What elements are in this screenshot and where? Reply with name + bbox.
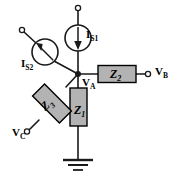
label-is1: IS1 bbox=[86, 29, 98, 43]
circuit-diagram: IS1 IS2 VA VB VC Z1 Z2 Z3 bbox=[0, 0, 179, 176]
label-va: VA bbox=[82, 77, 95, 91]
node-a-dot bbox=[75, 71, 81, 77]
wire-is2-top bbox=[24, 32, 36, 43]
ground-symbol bbox=[63, 160, 93, 170]
terminal-is1-top bbox=[75, 5, 80, 10]
current-source-is2 bbox=[32, 39, 58, 65]
label-z2: Z2 bbox=[110, 68, 121, 83]
label-is2: IS2 bbox=[21, 58, 33, 72]
wire-is2-bottom bbox=[54, 61, 78, 74]
terminal-vb bbox=[145, 71, 150, 76]
wire-z3-to-vc bbox=[29, 120, 39, 130]
label-vc: VC bbox=[12, 127, 25, 141]
label-vb: VB bbox=[155, 66, 168, 80]
label-z1: Z1 bbox=[74, 104, 85, 119]
terminal-is2-top bbox=[19, 27, 24, 32]
